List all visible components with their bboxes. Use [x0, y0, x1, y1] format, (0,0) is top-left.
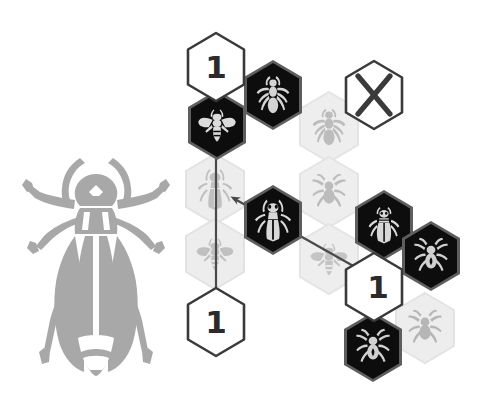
- scene-canvas: 1 1 1: [0, 0, 485, 397]
- count-marker-bottom[interactable]: 1: [183, 285, 249, 359]
- longhorn-beetle-silhouette: [18, 152, 178, 384]
- count-marker-value: 1: [205, 307, 227, 338]
- tile-ant-active[interactable]: [240, 58, 306, 132]
- close-icon: [341, 58, 407, 132]
- longhorn-beetle-icon: [240, 183, 306, 257]
- tile-bee-faded[interactable]: [182, 217, 248, 291]
- tile-spider-active-upper[interactable]: [398, 219, 464, 293]
- spider-icon: [398, 219, 464, 293]
- count-marker-value: 1: [205, 52, 227, 83]
- count-marker-value: 1: [367, 272, 389, 303]
- tile-longhorn-faded[interactable]: [182, 152, 248, 226]
- blocked-tile[interactable]: [341, 58, 407, 132]
- longhorn-beetle-icon: [182, 152, 248, 226]
- tile-longhorn-active[interactable]: [240, 183, 306, 257]
- count-marker-right[interactable]: 1: [341, 250, 407, 324]
- ant-icon: [240, 58, 306, 132]
- bee-icon: [182, 217, 248, 291]
- count-marker-top[interactable]: 1: [183, 30, 249, 104]
